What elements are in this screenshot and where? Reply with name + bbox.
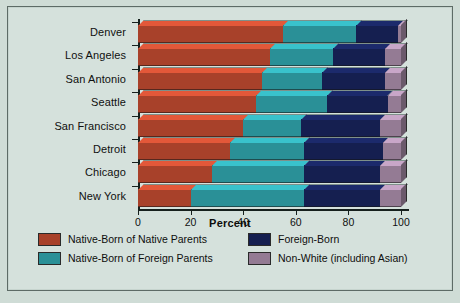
- bar-right-face: [401, 19, 407, 43]
- bar-right-face: [401, 89, 407, 113]
- bar-row: [8, 189, 452, 207]
- bar-row: [8, 165, 452, 183]
- bar-segment: [356, 25, 398, 43]
- x-axis-tick: [243, 210, 244, 215]
- bar-segment-top-face: [138, 90, 263, 96]
- bar-segment-top-face: [243, 114, 308, 120]
- legend-swatch: [38, 252, 61, 265]
- bar-row: [8, 48, 452, 66]
- bar-segment: [243, 119, 301, 137]
- bar-segment-top-face: [138, 114, 250, 120]
- y-axis-tick: [132, 45, 138, 46]
- bar-segment: [301, 119, 380, 137]
- chart-screenshot: DenverLos AngelesSan AntonioSeattleSan F…: [0, 0, 460, 303]
- legend-swatch: [38, 233, 61, 246]
- bar-right-face: [401, 66, 407, 90]
- bar-segment: [322, 72, 385, 90]
- bar-segment: [385, 72, 401, 90]
- bar-row: [8, 142, 452, 160]
- bar-segment-top-face: [138, 43, 277, 49]
- bar-segment: [380, 165, 401, 183]
- legend-label: Native-Born of Native Parents: [68, 233, 207, 245]
- bar-segment-top-face: [256, 90, 334, 96]
- y-axis-tick: [132, 162, 138, 163]
- bar-segment: [383, 142, 401, 160]
- x-axis-title: Percent: [8, 217, 452, 229]
- x-axis-tick: [348, 210, 349, 215]
- x-axis-tick: [401, 210, 402, 215]
- bar-segment-top-face: [333, 43, 393, 49]
- bar-segment: [138, 119, 243, 137]
- bar-segment: [138, 48, 270, 66]
- bar-segment-top-face: [322, 67, 392, 73]
- bar-segment: [327, 95, 387, 113]
- x-axis-tick: [191, 210, 192, 215]
- legend-swatch: [248, 233, 271, 246]
- bar-segment-top-face: [262, 67, 329, 73]
- bar-segment-top-face: [138, 184, 198, 190]
- y-axis-tick: [132, 139, 138, 140]
- bar-segment: [262, 72, 322, 90]
- legend-label: Foreign-Born: [278, 233, 339, 245]
- chart-panel: DenverLos AngelesSan AntonioSeattleSan F…: [7, 6, 453, 291]
- bar-segment-top-face: [283, 20, 364, 26]
- bar-segment-top-face: [191, 184, 311, 190]
- plot-area: DenverLos AngelesSan AntonioSeattleSan F…: [8, 7, 452, 290]
- bar-row: [8, 119, 452, 137]
- bar-segment-top-face: [138, 20, 290, 26]
- bar-segment: [270, 48, 333, 66]
- bar-right-face: [401, 136, 407, 160]
- y-axis-tick: [132, 186, 138, 187]
- bar-row: [8, 72, 452, 90]
- bar-right-face: [401, 42, 407, 66]
- legend-label: Native-Born of Foreign Parents: [68, 252, 213, 264]
- bar-segment: [138, 142, 230, 160]
- bar-segment: [191, 189, 304, 207]
- legend-label: Non-White (including Asian): [278, 252, 408, 264]
- bar-segment: [304, 142, 383, 160]
- bar-right-face: [401, 183, 407, 207]
- bar-segment-top-face: [304, 184, 387, 190]
- bar-segment-top-face: [304, 137, 390, 143]
- y-axis-tick: [132, 22, 138, 23]
- bar-segment: [385, 48, 401, 66]
- bar-segment-top-face: [230, 137, 311, 143]
- legend-swatch: [248, 252, 271, 265]
- bar-segment: [138, 165, 212, 183]
- x-axis-tick: [138, 210, 139, 215]
- bar-row: [8, 95, 452, 113]
- y-axis-tick: [132, 116, 138, 117]
- bar-segment: [380, 119, 401, 137]
- x-axis-line: [138, 209, 409, 211]
- y-axis-tick: [132, 69, 138, 70]
- bar-segment-top-face: [212, 160, 311, 166]
- bar-segment-top-face: [270, 43, 340, 49]
- bar-segment-top-face: [327, 90, 394, 96]
- bar-segment-top-face: [138, 67, 269, 73]
- bar-segment-top-face: [138, 137, 237, 143]
- bar-segment: [283, 25, 357, 43]
- bar-segment: [138, 25, 283, 43]
- figure-caption: [24, 292, 444, 302]
- bar-segment: [138, 72, 262, 90]
- x-axis-tick: [296, 210, 297, 215]
- bar-segment-top-face: [301, 114, 387, 120]
- bar-segment-top-face: [304, 160, 387, 166]
- bar-segment: [230, 142, 304, 160]
- bar-segment: [388, 95, 401, 113]
- bar-right-face: [401, 113, 407, 137]
- bar-segment: [138, 189, 191, 207]
- bar-row: [8, 25, 452, 43]
- bar-segment: [138, 95, 256, 113]
- bar-segment: [256, 95, 327, 113]
- bar-segment: [304, 165, 380, 183]
- bar-segment: [304, 189, 380, 207]
- bar-right-face: [401, 159, 407, 183]
- bar-segment: [380, 189, 401, 207]
- bar-segment-top-face: [138, 160, 219, 166]
- bar-segment: [212, 165, 304, 183]
- y-axis-tick: [132, 92, 138, 93]
- bar-segment: [333, 48, 386, 66]
